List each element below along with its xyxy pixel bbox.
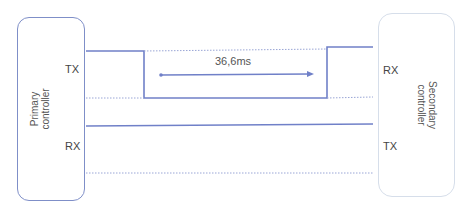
secondary-rx-label: RX bbox=[383, 64, 398, 76]
secondary-name-line1: Secondary bbox=[427, 81, 438, 129]
secondary-name-line2: controller bbox=[416, 81, 427, 129]
duration-arrow-start-dot bbox=[159, 73, 163, 77]
tx-low-dotted-right bbox=[327, 97, 373, 98]
primary-name-line2: controller bbox=[40, 88, 51, 129]
primary-tx-label: TX bbox=[65, 63, 79, 75]
duration-arrowhead-icon bbox=[307, 71, 314, 77]
tx-high-dotted bbox=[144, 49, 327, 51]
rx-signal-line bbox=[86, 124, 373, 126]
primary-rx-label: RX bbox=[65, 140, 80, 152]
duration-label: 36,6ms bbox=[215, 55, 251, 67]
duration-arrow bbox=[161, 74, 310, 75]
timing-diagram bbox=[0, 0, 472, 209]
primary-name-line1: Primary bbox=[29, 88, 40, 129]
secondary-tx-label: TX bbox=[383, 140, 397, 152]
primary-controller-label: Primary controller bbox=[29, 88, 51, 129]
secondary-controller-label: Secondary controller bbox=[416, 81, 438, 129]
